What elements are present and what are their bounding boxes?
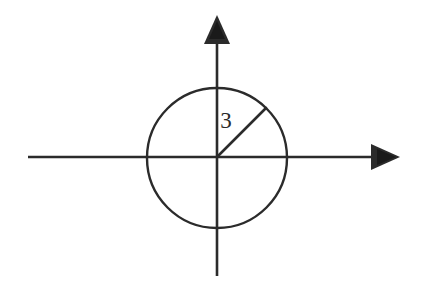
figure-canvas: 3 (0, 0, 428, 287)
radius-length-label: 3 (220, 108, 232, 133)
geometry-figure: 3 (0, 0, 428, 287)
